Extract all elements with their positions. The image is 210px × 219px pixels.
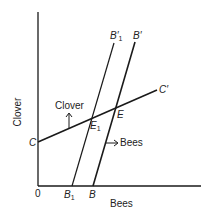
bees-line <box>93 42 135 186</box>
y-axis-label: Clover <box>12 97 23 127</box>
b-prime-label: B′ <box>133 30 143 41</box>
b1-label: B1 <box>64 189 75 201</box>
b1-prime-label: B′1 <box>110 30 123 42</box>
e1-label: E1 <box>90 120 101 132</box>
origin-label: 0 <box>35 188 41 199</box>
clover-arrow-label: Clover <box>55 100 85 111</box>
c-prime-label: C′ <box>159 84 169 95</box>
b-label: B <box>89 189 96 200</box>
x-axis-label: Bees <box>110 198 133 209</box>
diagram: Clover Bees 0 C C′ B B′ B1 B′1 E E1 Clov… <box>0 0 210 219</box>
e-label: E <box>117 109 124 120</box>
bees-shifted-line <box>72 43 114 186</box>
c-label: C <box>29 137 37 148</box>
bees-arrow-label: Bees <box>120 137 143 148</box>
